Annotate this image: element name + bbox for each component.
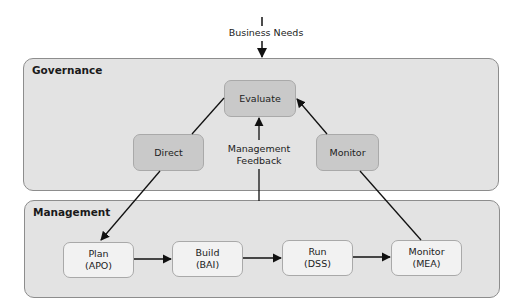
monitor-mea-node: Monitor (MEA) xyxy=(391,240,462,276)
monitor-governance-node: Monitor xyxy=(316,134,379,171)
monitor-mea-code: (MEA) xyxy=(408,258,444,270)
direct-label: Direct xyxy=(154,147,182,159)
run-label: Run xyxy=(304,246,331,258)
evaluate-label: Evaluate xyxy=(239,93,281,105)
build-label: Build xyxy=(196,247,220,259)
feedback-label-line2: Feedback xyxy=(219,155,299,167)
feedback-label-line1: Management xyxy=(219,143,299,155)
evaluate-node: Evaluate xyxy=(224,80,296,117)
plan-code: (APO) xyxy=(85,260,112,272)
monitor-governance-label: Monitor xyxy=(329,147,365,159)
build-code: (BAI) xyxy=(196,259,220,271)
management-feedback-label: Management Feedback xyxy=(219,143,299,167)
build-node: Build (BAI) xyxy=(172,241,243,277)
monitor-mea-label: Monitor xyxy=(408,246,444,258)
run-node: Run (DSS) xyxy=(282,240,353,276)
governance-title: Governance xyxy=(32,64,102,76)
run-code: (DSS) xyxy=(304,258,331,270)
plan-node: Plan (APO) xyxy=(63,242,134,278)
management-title: Management xyxy=(33,206,110,218)
plan-label: Plan xyxy=(85,248,112,260)
governance-panel: Governance xyxy=(23,58,499,191)
business-needs-label: Business Needs xyxy=(226,27,306,39)
direct-node: Direct xyxy=(133,134,204,171)
